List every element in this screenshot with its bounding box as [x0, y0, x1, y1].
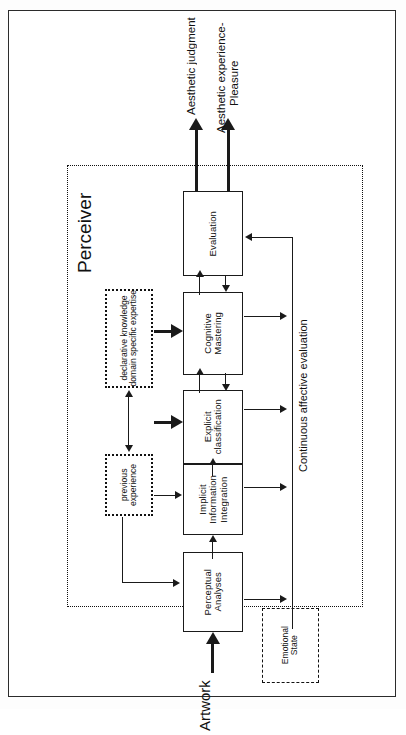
node-declarative-knowledge[interactable]: declarative knowledge domain specific ex…: [105, 289, 153, 388]
node-implicit-information-integration-label: Implicit Information Integration: [198, 475, 229, 524]
edge-bus-to-evaluation-arrowhead: [245, 233, 252, 241]
edge-implicit-to-explicit-shaft: [212, 464, 213, 476]
node-explicit-classification[interactable]: Explicit classification: [183, 390, 243, 464]
edge-cognitive-to-evaluation-arrowhead: [196, 270, 204, 277]
perceiver-label: Perceiver: [75, 181, 109, 285]
node-emotional-state-label: Emotional State: [281, 626, 300, 664]
edge-cognitive-to-bus-shaft: [244, 316, 281, 317]
edge-prevexp-to-perceptual-arrowhead: [173, 579, 180, 587]
edge-explicit-to-cognitive-arrowhead: [196, 368, 204, 375]
edge-prevexp-to-implicit-shaft: [154, 495, 176, 496]
edge-perceptual-to-implicit-shaft: [212, 542, 213, 559]
artwork-arrowhead: [206, 632, 220, 644]
edge-prevexp-knowledge-shaft: [128, 396, 129, 446]
edge-prevexp-knowledge-arrowhead-up: [125, 390, 133, 397]
output-pleasure-label: Aesthetic experience- Pleasure: [215, 33, 247, 133]
node-previous-experience-label: previous experience: [120, 464, 139, 506]
edge-cognitive-to-bus-arrowhead: [280, 312, 287, 320]
node-perceptual-analyses-label: Perceptual Analyses: [203, 569, 224, 615]
output-judgment-arrowhead: [189, 118, 203, 130]
edge-evaluation-to-cognitive-arrowhead: [222, 285, 230, 292]
node-declarative-knowledge-label: declarative knowledge domain specific ex…: [120, 290, 139, 387]
node-explicit-classification-label: Explicit classification: [203, 399, 224, 454]
edge-prevexp-to-perceptual-vertical: [122, 517, 123, 583]
output-judgment-label-text: Aesthetic judgment: [185, 33, 209, 115]
scanned-page-border: Perceiver Evaluation Cognitive Mastering…: [8, 10, 396, 697]
edge-cognitive-to-evaluation-shaft: [199, 277, 200, 295]
node-evaluation[interactable]: Evaluation: [183, 191, 243, 276]
edge-explicit-to-bus-arrowhead: [280, 405, 287, 413]
edge-implicit-to-bus-shaft: [244, 487, 281, 488]
node-evaluation-label: Evaluation: [208, 211, 218, 256]
output-pleasure-label-text: Aesthetic experience- Pleasure: [215, 33, 247, 133]
perceiver-label-text: Perceiver: [75, 181, 109, 285]
node-perceptual-analyses[interactable]: Perceptual Analyses: [183, 552, 243, 632]
node-previous-experience[interactable]: previous experience: [105, 454, 153, 516]
edge-implicit-to-bus-arrowhead: [280, 483, 287, 491]
edge-knowledge-to-explicit-arrowhead: [171, 415, 183, 429]
affective-bus-line: [292, 237, 293, 629]
node-cognitive-mastering-label: Cognitive Mastering: [203, 312, 224, 355]
output-pleasure-shaft: [227, 129, 230, 192]
edge-bus-to-evaluation-shaft: [252, 237, 293, 238]
edge-perceptual-to-implicit-arrowhead: [209, 535, 217, 542]
node-emotional-state[interactable]: Emotional State: [262, 608, 319, 683]
edge-perceptual-to-bus-shaft: [244, 599, 281, 600]
output-judgment-shaft: [195, 129, 198, 192]
edge-prevexp-knowledge-arrowhead-down: [125, 445, 133, 452]
edge-prevexp-to-perceptual-horizontal: [122, 582, 174, 583]
edge-implicit-to-explicit-arrowhead: [209, 458, 217, 465]
continuous-affective-evaluation-label-text: Continuous affective evaluation: [298, 301, 320, 491]
artwork-label-text: Artwork: [197, 675, 227, 735]
artwork-arrow-shaft: [211, 640, 214, 673]
edge-explicit-to-bus-shaft: [244, 409, 281, 410]
output-judgment-label: Aesthetic judgment: [185, 33, 209, 115]
artwork-label: Artwork: [197, 675, 227, 735]
edge-knowledge-to-cognitive-arrowhead: [171, 324, 183, 338]
edge-explicit-to-cognitive-shaft: [199, 375, 200, 393]
edge-perceptual-to-bus-arrowhead: [280, 595, 287, 603]
continuous-affective-evaluation-label: Continuous affective evaluation: [298, 301, 320, 491]
edge-prevexp-to-implicit-arrowhead: [175, 491, 182, 499]
edge-cognitive-to-explicit-arrowhead: [222, 384, 230, 391]
node-cognitive-mastering[interactable]: Cognitive Mastering: [183, 292, 243, 375]
